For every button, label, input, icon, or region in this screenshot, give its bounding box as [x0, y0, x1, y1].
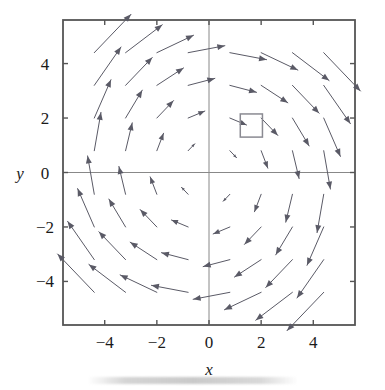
field-arrow	[213, 227, 230, 234]
field-arrow	[297, 260, 324, 298]
y-tick-label: 4	[41, 55, 50, 72]
y-axis-title: y	[16, 164, 24, 181]
field-arrow	[188, 144, 195, 151]
field-arrow	[261, 151, 268, 168]
scan-artifact-band	[88, 377, 298, 384]
square-region-outline	[240, 114, 262, 137]
field-arrow	[203, 260, 230, 268]
field-arrow	[188, 111, 205, 118]
field-arrow	[266, 260, 293, 288]
field-arrow	[256, 292, 293, 320]
field-arrow	[276, 227, 293, 255]
field-arrow	[157, 101, 174, 118]
field-arrow	[224, 292, 261, 309]
x-axis-title: x	[205, 361, 213, 378]
arrow-head	[207, 77, 215, 83]
arrow-head	[307, 257, 313, 265]
arrow-head	[285, 214, 291, 222]
arrow-head	[254, 204, 259, 211]
arrow-head	[130, 242, 138, 249]
arrow-head	[136, 90, 142, 98]
field-arrow	[315, 194, 323, 232]
field-arrow	[94, 80, 111, 118]
field-arrow	[157, 68, 184, 85]
field-arrow	[109, 199, 126, 227]
arrow-head	[154, 25, 162, 32]
arrow-head	[234, 270, 242, 277]
arrow-head	[89, 264, 97, 271]
field-arrow	[181, 187, 188, 194]
arrow-head	[120, 275, 128, 281]
field-arrow	[78, 189, 95, 227]
x-tick-label: 0	[205, 334, 214, 351]
vector-field-figure: −4−2024420−2−4xy	[0, 0, 385, 390]
field-arrow	[188, 77, 215, 85]
arrow-head	[335, 148, 341, 156]
arrow-head	[114, 47, 121, 55]
arrow-head	[203, 262, 211, 268]
arrow-head	[186, 35, 194, 41]
field-arrow	[261, 53, 298, 70]
arrow-head	[171, 220, 178, 225]
field-arrow	[150, 177, 157, 194]
field-arrow	[292, 151, 300, 179]
arrow-head	[176, 68, 184, 75]
arrow-head	[303, 138, 309, 146]
field-arrow	[324, 118, 341, 156]
arrow-head	[128, 123, 134, 131]
field-arrow	[244, 227, 261, 244]
field-arrow	[99, 232, 126, 260]
arrow-head	[109, 199, 115, 207]
arrow-head	[151, 284, 159, 290]
field-arrow	[157, 133, 164, 150]
field-arrow	[140, 210, 157, 227]
arrow-head	[326, 181, 332, 189]
x-tick-label: −4	[96, 334, 114, 351]
arrow-head	[150, 177, 155, 184]
field-arrow	[126, 57, 153, 85]
field-arrow	[120, 275, 157, 292]
square-region-marker	[240, 114, 262, 137]
y-tick-label: 2	[41, 110, 50, 127]
field-arrow	[94, 47, 121, 85]
arrow-head	[224, 304, 232, 310]
field-arrow	[307, 227, 324, 265]
arrow-head	[290, 64, 298, 70]
arrow-head	[213, 229, 220, 234]
arrow-head	[297, 290, 304, 298]
arrow-head	[263, 161, 268, 168]
field-arrow	[188, 44, 225, 53]
field-arrow	[126, 123, 134, 151]
field-arrow	[292, 85, 319, 113]
field-arrow	[126, 25, 163, 53]
field-arrow	[193, 292, 230, 301]
arrow-head	[344, 116, 351, 124]
arrow-head	[315, 225, 321, 233]
field-arrow	[234, 260, 261, 277]
arrow-head	[249, 88, 257, 94]
field-arrow	[324, 151, 332, 189]
field-arrow	[130, 242, 157, 259]
field-arrow	[230, 85, 257, 93]
field-arrow	[292, 118, 309, 146]
field-arrow	[89, 264, 126, 292]
field-arrow	[68, 221, 95, 259]
arrow-head	[118, 166, 124, 174]
y-tick-label: −2	[36, 218, 54, 235]
arrow-head	[217, 44, 225, 50]
arrow-head	[280, 96, 288, 103]
arrow-head	[68, 221, 75, 229]
y-tick-label: 0	[41, 164, 50, 181]
field-arrow	[94, 112, 102, 150]
arrow-head	[78, 189, 84, 197]
axis-lines	[63, 20, 355, 325]
arrow-head	[198, 111, 205, 116]
field-arrow	[151, 284, 188, 293]
field-arrow	[86, 156, 94, 194]
field-arrow	[254, 194, 261, 211]
field-arrow	[126, 90, 143, 118]
arrow-head	[105, 80, 111, 88]
field-arrow	[324, 85, 351, 123]
field-arrow	[261, 118, 278, 135]
arrow-head	[193, 295, 201, 301]
